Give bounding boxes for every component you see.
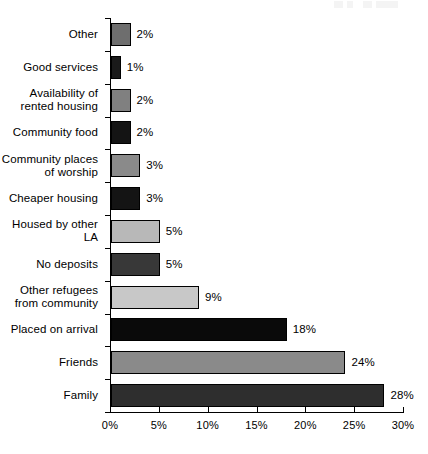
bar [111,23,131,46]
bar [111,121,131,144]
bar-value-label: 24% [351,356,374,369]
bar [111,351,345,374]
value-axis-tick-label: 30% [392,419,415,432]
bar [111,286,199,309]
value-axis-tick-label: 15% [245,419,268,432]
bar-row: Placed on arrival18% [0,314,428,347]
value-axis-tick-label: 10% [196,419,219,432]
category-label: No deposits [0,258,98,271]
page-artifact-mark [334,1,398,8]
bar-row: Availability of rented housing2% [0,84,428,117]
bar-value-label: 5% [166,258,183,271]
bar-row: Housed by other LA5% [0,215,428,248]
category-label: Good services [0,61,98,74]
bar-row: Other2% [0,18,428,51]
bar-value-label: 9% [205,291,222,304]
category-label: Placed on arrival [0,323,98,336]
bar-value-label: 3% [146,159,163,172]
bar-value-label: 5% [166,225,183,238]
plot-area: 0%5%10%15%20%25%30% Other2%Good services… [0,0,428,454]
horizontal-bar-chart: 0%5%10%15%20%25%30% Other2%Good services… [0,0,428,454]
value-axis-tick-label: 0% [102,419,118,432]
category-label: Housed by other LA [0,218,98,244]
bar-value-label: 2% [137,94,154,107]
bar-row: Cheaper housing3% [0,182,428,215]
bar [111,89,131,112]
value-axis-tick-label: 25% [343,419,366,432]
bar [111,187,140,210]
category-label: Other [0,28,98,41]
value-axis-tick-label: 20% [294,419,317,432]
bar-row: Other refugees from community9% [0,281,428,314]
category-label: Friends [0,356,98,369]
bar-value-label: 2% [137,126,154,139]
bar [111,318,287,341]
bar-row: Good services1% [0,51,428,84]
bar-row: No deposits5% [0,248,428,281]
bar-value-label: 18% [293,323,316,336]
category-label: Community places of worship [0,153,98,179]
category-label: Cheaper housing [0,192,98,205]
bar-value-label: 1% [127,61,144,74]
bar [111,253,160,276]
bar-value-label: 2% [137,28,154,41]
category-label: Community food [0,126,98,139]
bar [111,384,384,407]
bar-row: Family28% [0,379,428,412]
value-axis-tick-label: 5% [151,419,167,432]
bar-row: Community places of worship3% [0,149,428,182]
bar-value-label: 3% [146,192,163,205]
bar-row: Community food2% [0,117,428,150]
category-label: Availability of rented housing [0,87,98,113]
bar-value-label: 28% [390,389,413,402]
bar-row: Friends24% [0,346,428,379]
bar [111,56,121,79]
category-label: Other refugees from community [0,284,98,310]
bar [111,220,160,243]
category-label: Family [0,389,98,402]
bar [111,154,140,177]
